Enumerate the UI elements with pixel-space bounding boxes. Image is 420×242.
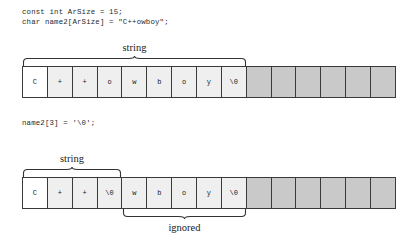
annotation-label-string-1: string (22, 42, 247, 53)
array-cell: o (172, 178, 197, 208)
array-cell: o (172, 67, 197, 97)
annotation-label-string-2: string (22, 153, 122, 164)
array-cell (321, 178, 346, 208)
array-cell (296, 178, 321, 208)
array-cell: + (73, 178, 98, 208)
array-cell: + (73, 67, 98, 97)
array-cell: y (197, 67, 222, 97)
array-cell: \0 (222, 67, 247, 97)
array-cell: \0 (222, 178, 247, 208)
code-snippet-assignment: name2[3] = '\0'; (22, 119, 95, 129)
annotation-label-ignored: ignored (122, 222, 247, 233)
annotation-string-brace-1: string (22, 42, 247, 66)
curly-brace-icon (122, 209, 247, 220)
array-cell: b (147, 67, 172, 97)
annotation-string-brace-2: string (22, 153, 122, 177)
code-snippet-declaration: const int ArSize = 15; char name2[ArSize… (22, 8, 169, 27)
array-cell: b (147, 178, 172, 208)
array-row-truncated: C++\0wboy\0 (22, 177, 396, 209)
string-array-diagram: const int ArSize = 15; char name2[ArSize… (0, 0, 420, 242)
array-cell: + (48, 178, 73, 208)
array-cell (272, 67, 297, 97)
array-cell: C (23, 67, 48, 97)
array-cell (371, 178, 395, 208)
array-cell (247, 178, 272, 208)
array-cell: y (197, 178, 222, 208)
array-cell (272, 178, 297, 208)
array-cell: \0 (98, 178, 123, 208)
array-cell (247, 67, 272, 97)
array-cell (346, 67, 371, 97)
array-cell: w (122, 67, 147, 97)
array-row-initialized: C++owboy\0 (22, 66, 396, 98)
array-cell (296, 67, 321, 97)
array-cell (346, 178, 371, 208)
annotation-ignored-brace: ignored (122, 209, 247, 237)
array-cell (371, 67, 395, 97)
array-cell: C (23, 178, 48, 208)
array-cell: + (48, 67, 73, 97)
array-cell: w (122, 178, 147, 208)
array-cell (321, 67, 346, 97)
array-cell: o (98, 67, 123, 97)
